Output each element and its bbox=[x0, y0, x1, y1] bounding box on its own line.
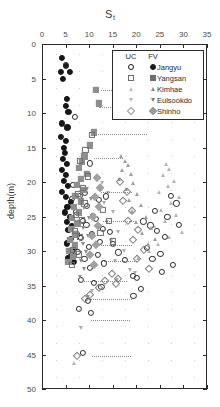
data-point bbox=[82, 267, 86, 271]
trend-line-3 bbox=[94, 158, 123, 159]
data-point bbox=[111, 210, 115, 214]
data-point bbox=[89, 132, 95, 138]
legend-header: UCFV bbox=[113, 51, 203, 62]
data-point bbox=[79, 326, 83, 330]
y-tick bbox=[42, 251, 46, 252]
x-tick-label-3: 15 bbox=[108, 30, 117, 39]
data-point bbox=[174, 213, 178, 217]
data-point bbox=[133, 271, 137, 275]
data-point bbox=[106, 191, 110, 195]
data-point bbox=[82, 206, 86, 210]
y-tick bbox=[42, 113, 46, 114]
y-tick-label-7: 35 bbox=[27, 281, 36, 290]
legend-label: Yangsan bbox=[157, 74, 186, 83]
data-point bbox=[127, 198, 131, 202]
data-point bbox=[120, 168, 124, 172]
data-point bbox=[76, 165, 82, 171]
data-point bbox=[129, 172, 133, 176]
x-tick bbox=[183, 44, 184, 48]
data-point bbox=[157, 190, 161, 194]
data-point bbox=[172, 179, 176, 183]
x-tick bbox=[113, 385, 114, 389]
y-tick bbox=[42, 79, 46, 80]
x-tick bbox=[136, 44, 137, 48]
data-point bbox=[85, 173, 91, 179]
y-tick-label-9: 45 bbox=[27, 350, 36, 359]
data-point bbox=[81, 226, 85, 230]
data-point bbox=[77, 158, 83, 164]
y-tick-label-2: 10 bbox=[27, 109, 36, 118]
y-tick bbox=[203, 217, 207, 218]
y-tick-label-3: 15 bbox=[27, 143, 36, 152]
x-tick bbox=[207, 385, 208, 389]
x-tick bbox=[66, 385, 67, 389]
legend-row: Kimhae bbox=[113, 84, 203, 95]
data-point bbox=[102, 201, 106, 205]
data-point bbox=[85, 187, 89, 191]
y-tick-label-1: 5 bbox=[32, 74, 36, 83]
data-point bbox=[113, 259, 117, 263]
x-tick-label-6: 30 bbox=[179, 30, 188, 39]
y-tick bbox=[42, 320, 46, 321]
legend-label: Eulsookdo bbox=[157, 96, 192, 105]
y-tick bbox=[42, 286, 46, 287]
data-point bbox=[177, 195, 181, 199]
x-tick-label-2: 10 bbox=[85, 30, 94, 39]
data-point bbox=[119, 154, 123, 158]
legend-row: Shinho bbox=[113, 106, 203, 117]
legend: UCFV JangyuYangsanKimhaeEulsookdoShinho bbox=[112, 50, 204, 120]
x-tick bbox=[183, 385, 184, 389]
data-point bbox=[146, 242, 150, 246]
legend-column-header-uc: UC bbox=[126, 52, 137, 61]
data-point bbox=[76, 251, 82, 257]
x-tick bbox=[89, 385, 90, 389]
data-point bbox=[128, 268, 132, 272]
legend-row: Jangyu bbox=[113, 62, 203, 73]
y-axis-label: depth(m) bbox=[6, 166, 16, 236]
y-tick-label-5: 25 bbox=[27, 212, 36, 221]
trend-line-10 bbox=[91, 320, 130, 321]
y-tick bbox=[203, 286, 207, 287]
data-point bbox=[93, 86, 99, 92]
data-point bbox=[169, 201, 173, 205]
x-tick bbox=[136, 385, 137, 389]
y-tick-label-6: 30 bbox=[27, 247, 36, 256]
data-point bbox=[69, 262, 75, 268]
data-point bbox=[134, 220, 138, 224]
data-point bbox=[116, 230, 120, 234]
data-point bbox=[167, 235, 171, 239]
data-point bbox=[95, 100, 101, 106]
data-point bbox=[166, 184, 170, 188]
x-tick-label-4: 20 bbox=[132, 30, 141, 39]
trend-line-2 bbox=[98, 134, 147, 135]
y-tick bbox=[203, 355, 207, 356]
data-point bbox=[77, 234, 83, 240]
y-tick bbox=[42, 389, 46, 390]
y-tick bbox=[203, 182, 207, 183]
data-point bbox=[144, 215, 148, 219]
data-point bbox=[122, 249, 126, 253]
y-tick bbox=[203, 251, 207, 252]
chart-title-subscript: t bbox=[112, 14, 115, 21]
y-tick bbox=[203, 389, 207, 390]
data-point bbox=[75, 191, 81, 197]
data-point bbox=[139, 203, 143, 207]
x-tick bbox=[89, 44, 90, 48]
x-tick bbox=[160, 44, 161, 48]
data-point bbox=[72, 361, 76, 365]
x-tick-label-1: 5 bbox=[63, 30, 67, 39]
x-tick-label-5: 25 bbox=[155, 30, 164, 39]
x-tick bbox=[113, 44, 114, 48]
legend-label: Kimhae bbox=[157, 85, 182, 94]
data-point bbox=[152, 224, 156, 228]
data-point bbox=[82, 147, 88, 153]
data-point bbox=[163, 219, 167, 223]
legend-row: Eulsookdo bbox=[113, 95, 203, 106]
data-point bbox=[78, 275, 82, 279]
x-tick-label-7: 35 bbox=[203, 30, 212, 39]
data-point bbox=[167, 167, 171, 171]
y-tick bbox=[42, 217, 46, 218]
y-tick-label-4: 20 bbox=[27, 178, 36, 187]
y-tick-label-10: 50 bbox=[27, 385, 36, 394]
trend-line-9 bbox=[90, 299, 131, 300]
